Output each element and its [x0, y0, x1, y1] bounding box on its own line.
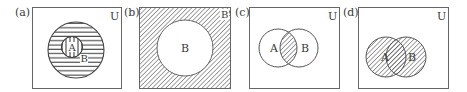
panel-a: (a) U A B	[15, 6, 122, 89]
set-a-label-d: A	[380, 51, 390, 64]
set-a-label-c: A	[269, 42, 279, 55]
panel-d: (d) U A B	[343, 6, 449, 89]
panel-a-tag: (a)	[15, 6, 30, 19]
venn-diagram-figure: (a) U A B (b) B' B (c) U A B (d) U	[0, 0, 467, 92]
panel-c-tag: (c)	[235, 6, 250, 19]
universe-label-a: U	[110, 10, 119, 23]
set-a-label-a: A	[68, 42, 77, 53]
panel-b-tag: (b)	[124, 6, 140, 19]
set-b-label-b: B	[181, 42, 189, 55]
set-b-label-c: B	[301, 42, 309, 55]
set-b-label-a: B	[81, 53, 88, 64]
universe-label-d: U	[437, 10, 446, 23]
panel-c: (c) U A B	[235, 6, 340, 89]
panel-b: (b) B' B	[124, 6, 231, 89]
set-b-label-d: B	[408, 51, 416, 64]
panel-d-tag: (d)	[343, 6, 359, 19]
universe-label-c: U	[328, 10, 337, 23]
complement-label-b: B'	[221, 9, 231, 20]
